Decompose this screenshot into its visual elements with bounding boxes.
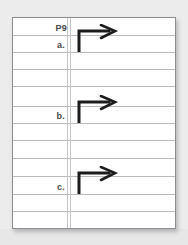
rule-line (13, 69, 176, 70)
turn-right-arrow-icon (73, 95, 125, 123)
page-background: P9 a. b. c. (0, 0, 188, 245)
background-bottom-edge (0, 229, 188, 245)
rule-line (13, 194, 176, 195)
turn-right-arrow-icon (73, 24, 125, 52)
page-number-label: P9 (56, 23, 67, 33)
rule-line (13, 211, 176, 212)
rule-line (13, 86, 176, 87)
turn-right-arrow-icon (73, 166, 125, 194)
margin-line-right (70, 18, 71, 229)
item-label-c: c. (57, 182, 65, 192)
margin-line-left (67, 18, 68, 229)
rule-line (13, 52, 176, 53)
rule-line (13, 140, 176, 141)
notebook-paper-card: P9 a. b. c. (12, 17, 176, 229)
item-label-b: b. (57, 111, 65, 121)
background-top-edge (0, 0, 188, 17)
rule-line (13, 158, 176, 159)
rule-line (13, 123, 176, 124)
item-label-a: a. (57, 40, 65, 50)
